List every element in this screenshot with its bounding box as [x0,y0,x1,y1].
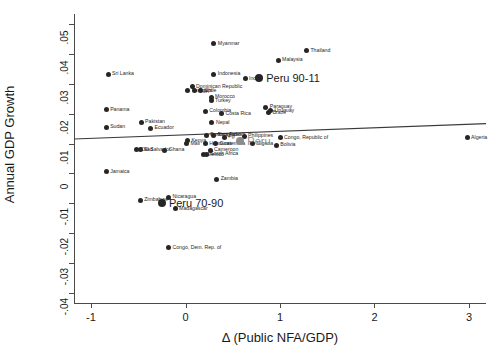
data-point[interactable] [162,148,167,153]
data-point[interactable] [274,143,279,148]
data-point-label: Sudan [110,125,125,130]
data-point[interactable] [138,147,143,152]
x-tick-mark [469,303,470,308]
x-axis-title: Δ (Public NFA/GDP) [74,330,486,345]
data-point[interactable] [139,120,144,125]
data-point-label: Mali [190,141,200,146]
data-point-label: Peru [247,136,270,147]
data-point-label: Ecuador [155,126,174,131]
data-point-label: Malaysia [282,58,302,63]
trend-line [74,14,486,303]
y-tick-label: .04 [59,52,70,84]
data-point-label: Indonesia [218,72,241,77]
data-point[interactable] [138,198,143,203]
data-point[interactable] [203,141,208,146]
data-point[interactable] [106,72,111,77]
data-point-label: Sri Lanka [112,72,134,77]
x-tick-mark [280,303,281,308]
data-point[interactable] [222,135,227,140]
data-point[interactable] [278,135,283,140]
data-point-label: Zambia [221,177,238,182]
data-point-label: Bolivia [280,142,295,147]
x-tick-mark [186,303,187,308]
data-point-label: Madagascar [179,206,208,211]
data-point-label: Fiji [228,134,235,139]
plot-area: -.04-.03-.02-.010.01.02.03.04.05 -10123 … [74,14,486,303]
y-tick-label: -.03 [59,260,70,292]
data-point[interactable] [148,126,153,131]
y-tick-label: .01 [59,141,70,173]
y-tick-label: 0 [59,171,70,203]
data-point-label: Thailand [310,48,330,53]
data-point[interactable] [276,58,281,63]
data-point-label: Panama [110,107,129,112]
x-tick-mark [91,303,92,308]
y-tick-label: -.01 [59,201,70,233]
y-tick-label: .05 [59,22,70,54]
data-point-label: Myanmar [218,41,240,46]
data-point[interactable] [184,141,189,146]
data-point-label: Congo, Dem. Rep. of [172,245,221,250]
x-tick-label: 1 [277,311,283,323]
data-point-label: Algeria [471,135,487,140]
data-point-label: Jamaica [110,169,129,174]
data-point-label: Costa Rica [225,111,250,116]
x-tick-mark [374,303,375,308]
data-point[interactable] [203,109,208,114]
x-tick-label: 3 [466,311,472,323]
y-tick-label: -.02 [59,230,70,262]
data-point[interactable] [243,76,248,81]
data-point-label: Turkey [215,98,231,103]
y-tick-label: .02 [59,111,70,143]
data-point-label: Chile [205,88,217,93]
x-tick-label: -1 [86,311,96,323]
data-point-label: Nepal [216,120,230,125]
data-point-label: Brazil [273,110,286,115]
x-tick-label: 0 [182,311,188,323]
data-point[interactable] [104,125,109,130]
data-point-label: Ghana [169,148,185,153]
data-point-label: Peru 90-11 [266,73,320,84]
x-tick-label: 2 [371,311,377,323]
data-point-label: Mexico [207,152,223,157]
y-tick-label: -.04 [59,290,70,322]
data-point[interactable] [465,135,470,140]
data-point-label: Congo, Republic of [284,135,328,140]
y-tick-label: .03 [59,82,70,114]
data-point[interactable] [173,206,178,211]
y-axis-title: Annual GDP Growth [2,0,18,289]
scatter-chart: Annual GDP Growth Δ (Public NFA/GDP) -.0… [0,0,500,360]
